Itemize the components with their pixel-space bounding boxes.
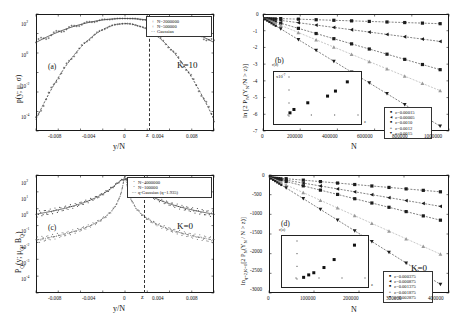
panel-b-inset-scale: x10-7 bbox=[276, 73, 285, 79]
panel-c-ylabel: PQ(y; μQ, BQ) bbox=[14, 232, 25, 273]
panel-d-inset bbox=[281, 235, 369, 288]
panel-d-xtick-3: 300000 bbox=[386, 295, 402, 301]
panel-a-label: (a) bbox=[48, 62, 56, 71]
panel-a-xtick-2: 0 bbox=[123, 133, 126, 139]
panel-b-xlabel: N bbox=[351, 142, 357, 151]
panel-b-xtick-3: 600000 bbox=[357, 133, 373, 139]
legend-item: - - Gaussian bbox=[149, 29, 209, 34]
panel-d-ytick-0: 0 bbox=[262, 172, 265, 178]
panel-c-ytick-1: 101 bbox=[21, 195, 28, 202]
panel-b-ytick-0: 0 bbox=[256, 11, 259, 17]
panel-b-xtick-5: 1000000 bbox=[424, 133, 442, 139]
panel-c-ytick-2: 100 bbox=[21, 211, 28, 218]
panel-b-inset bbox=[273, 71, 362, 125]
panel-c-xlabel: y/N bbox=[113, 304, 125, 313]
panel-b-ytick-3: -3 bbox=[253, 61, 257, 67]
panel-c-annotation: K=0 bbox=[177, 221, 193, 231]
panel-d-ytick-3: -1500 bbox=[250, 229, 262, 235]
panel-a-xlabel: y/N bbox=[113, 142, 125, 151]
panel-c-label: (c) bbox=[48, 223, 56, 232]
panel-b-xtick-2: 400000 bbox=[322, 133, 338, 139]
panel-d-ytick-4: -2000 bbox=[250, 248, 262, 254]
panel-d-xtick-0: 0 bbox=[267, 295, 270, 301]
panel-a-ytick-3: 10-4 bbox=[21, 113, 29, 120]
panel-a-legend: + N=2000000 + N=500000 - - Gaussian bbox=[146, 16, 212, 37]
panel-c-legend: · N=4000000 · N=100000 -·- q-Gaussian (q… bbox=[127, 177, 212, 198]
panel-a: 102 100 10-2 10-4 -0.008 -0.004 0 0.004 … bbox=[0, 0, 231, 164]
panel-d-inset-xlabel: z bbox=[371, 282, 373, 287]
legend-symbol-dashdot-line: -·- bbox=[130, 190, 138, 195]
panel-b: N ln [2 PN(YN/N > z)] (b) K=10 ■ z=0.000… bbox=[231, 0, 462, 164]
panel-b-ylabel: ln [2 PN(YN/N > z)] bbox=[241, 64, 250, 118]
panel-c-xtick-4: 0.008 bbox=[186, 295, 198, 301]
panel-d-ytick-2: -1000 bbox=[250, 210, 262, 216]
panel-c-z-marker: z bbox=[141, 294, 144, 300]
panel-d-xtick-1: 100000 bbox=[300, 295, 316, 301]
panel-c-xtick-3: 0.004 bbox=[152, 295, 164, 301]
panel-d-ytick-5: -2500 bbox=[250, 267, 262, 273]
panel-b-ytick-1: -1 bbox=[253, 28, 257, 34]
panel-a-ytick-0: 102 bbox=[21, 20, 28, 27]
panel-d-xtick-2: 200000 bbox=[343, 295, 359, 301]
legend-symbol-dashed-line: - - bbox=[149, 29, 157, 34]
panel-b-inset-points bbox=[274, 72, 363, 126]
panel-c-ytick-0: 102 bbox=[21, 179, 28, 186]
legend-label: q-Gaussian (q=1.935) bbox=[138, 190, 178, 195]
legend-label: Gaussian bbox=[157, 29, 174, 34]
panel-c-xtick-1: -0.004 bbox=[82, 295, 95, 301]
panel-c-xtick-2: 0 bbox=[123, 295, 126, 301]
panel-b-ytick-4: -4 bbox=[253, 78, 257, 84]
panel-d-xlabel: N bbox=[351, 305, 357, 314]
panel-c-ytick-6: 10-4 bbox=[21, 275, 29, 282]
panel-a-ytick-1: 100 bbox=[21, 51, 28, 58]
panel-a-xtick-4: 0.008 bbox=[186, 133, 198, 139]
panel-a-z-marker: z bbox=[146, 132, 149, 138]
panel-a-xtick-0: -0.008 bbox=[48, 133, 61, 139]
figure-root: 102 100 10-2 10-4 -0.008 -0.004 0 0.004 … bbox=[0, 0, 462, 327]
legend-item: -·- q-Gaussian (q=1.935) bbox=[130, 190, 209, 195]
panel-b-ytick-5: -5 bbox=[253, 94, 257, 100]
panel-d-inset-points bbox=[282, 236, 370, 289]
panel-b-xtick-1: 200000 bbox=[287, 133, 303, 139]
panel-d: N lnq=2,K=0[2 PN(YN / N > z)] (d) K=0 ■ … bbox=[231, 163, 462, 327]
panel-a-annotation: K=10 bbox=[177, 60, 198, 70]
panel-d-ylabel: lnq=2,K=0[2 PN(YN / N > z)] bbox=[239, 217, 248, 285]
panel-b-ytick-2: -2 bbox=[253, 44, 257, 50]
panel-b-inset-ylabel: r(z) bbox=[272, 62, 278, 67]
panel-b-xtick-0: 0 bbox=[261, 133, 264, 139]
panel-d-ytick-1: -500 bbox=[252, 191, 262, 197]
panel-c-xtick-0: -0.008 bbox=[48, 295, 61, 301]
panel-b-ytick-7: -7 bbox=[253, 128, 257, 134]
panel-d-ytick-6: -3000 bbox=[250, 286, 262, 292]
panel-a-xtick-3: 0.004 bbox=[152, 133, 164, 139]
panel-b-ytick-6: -6 bbox=[253, 111, 257, 117]
panel-a-xtick-1: -0.004 bbox=[82, 133, 95, 139]
panel-b-xtick-4: 800000 bbox=[392, 133, 408, 139]
panel-a-ylabel: p(y; μ, σ) bbox=[14, 75, 23, 103]
panel-c: 102 101 100 10-1 10-2 10-3 10-4 -0.008 -… bbox=[0, 163, 231, 327]
panel-d-inset-ylabel: r(z) bbox=[279, 227, 285, 232]
panel-b-inset-xlabel: z bbox=[364, 119, 366, 124]
panel-d-xtick-4: 400000 bbox=[428, 295, 444, 301]
